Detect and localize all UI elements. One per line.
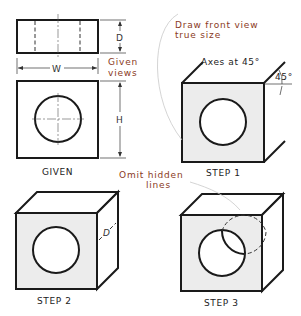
given-top-view <box>17 14 98 58</box>
oblique-drawing-figure: D W Given views H GIVEN <box>0 0 301 316</box>
step3-drawing <box>181 194 283 291</box>
caption-given: GIVEN <box>42 167 73 177</box>
width-dimension: W <box>17 58 98 74</box>
depth-dimension: D <box>100 20 126 53</box>
omit-hidden-note-line1: Omit hidden <box>119 170 183 180</box>
given-views-note-line1: Given <box>108 57 138 67</box>
depth-label-step2: D <box>103 228 110 238</box>
width-label: W <box>52 64 61 74</box>
depth-label: D <box>116 33 123 43</box>
step2-drawing <box>16 192 118 289</box>
given-front-view <box>17 81 98 158</box>
caption-step3: STEP 3 <box>204 298 239 308</box>
draw-front-note-line2: true size <box>175 30 221 40</box>
caption-step1: STEP 1 <box>206 168 241 178</box>
caption-step2: STEP 2 <box>37 296 72 306</box>
height-dimension: H <box>100 81 126 158</box>
height-label: H <box>116 115 123 125</box>
given-views-note-line2: views <box>108 68 137 78</box>
draw-front-note-line1: Draw front view <box>175 20 258 30</box>
axes-note: Axes at 45° <box>201 57 260 67</box>
omit-hidden-note-line2: lines <box>146 180 171 190</box>
angle-note: 45° <box>275 72 293 82</box>
